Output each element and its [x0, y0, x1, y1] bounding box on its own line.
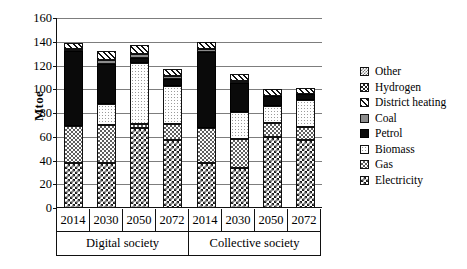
bar-segment-districtheating: [130, 45, 149, 53]
stacked-bar[interactable]: [230, 74, 249, 208]
bar-segment-electricity: [263, 137, 282, 208]
bar-segment-electricity: [230, 168, 249, 208]
bar-slot: [289, 18, 322, 208]
legend-item[interactable]: Petrol: [360, 126, 465, 142]
bar-segment-gas: [263, 123, 282, 137]
legend-label: District heating: [375, 97, 446, 109]
y-axis-tick-label: 20: [14, 177, 57, 192]
stacked-bar[interactable]: [64, 43, 83, 208]
legend-item[interactable]: Gas: [360, 157, 465, 173]
stacked-bar[interactable]: [130, 45, 149, 208]
bar-segment-biomass: [163, 86, 182, 124]
y-axis-tick-label: 140: [14, 34, 57, 49]
x-axis-category-label: 2050: [123, 209, 156, 231]
bar-slot: [156, 18, 189, 208]
legend-label: Gas: [375, 159, 393, 171]
y-axis-tick-label: 120: [14, 58, 57, 73]
bar-segment-gas: [64, 126, 83, 163]
legend-item[interactable]: Biomass: [360, 142, 465, 158]
y-axis-tick-label: 160: [14, 11, 57, 26]
legend-item[interactable]: Other: [360, 64, 465, 80]
x-axis-category-label: 2030: [90, 209, 123, 231]
legend-item[interactable]: Hydrogen: [360, 80, 465, 96]
x-axis-category-label: 2050: [255, 209, 288, 231]
stacked-bar[interactable]: [97, 51, 116, 208]
bar-segment-gas: [197, 128, 216, 162]
stacked-bar[interactable]: [163, 69, 182, 208]
y-axis-tick-label: 40: [14, 153, 57, 168]
legend-label: Petrol: [375, 128, 402, 140]
chart-legend: OtherHydrogenDistrict heatingCoalPetrolB…: [360, 64, 465, 188]
bar-segment-gas: [97, 125, 116, 163]
stacked-bar[interactable]: [296, 88, 315, 208]
stacked-bar[interactable]: [197, 42, 216, 208]
x-axis-category-label: 2014: [189, 209, 222, 231]
bar-segment-petrol: [64, 51, 83, 126]
x-axis-group-label: Digital society: [56, 231, 189, 255]
bar-segment-electricity: [296, 140, 315, 208]
legend-item[interactable]: District heating: [360, 95, 465, 111]
legend-label: Coal: [375, 113, 397, 125]
bar-segment-electricity: [130, 128, 149, 208]
bar-segment-biomass: [263, 106, 282, 123]
legend-swatch-other: [360, 67, 369, 76]
bar-segment-districtheating: [263, 89, 282, 96]
bar-slot: [190, 18, 223, 208]
legend-swatch-districtheating: [360, 98, 369, 107]
bar-segment-petrol: [97, 64, 116, 103]
bar-segment-petrol: [197, 52, 216, 128]
bar-slot: [123, 18, 156, 208]
legend-swatch-petrol: [360, 129, 369, 138]
bar-segment-districtheating: [97, 51, 116, 59]
bar-segment-electricity: [97, 163, 116, 208]
x-axis-category-label: 2072: [156, 209, 189, 231]
bar-segment-districtheating: [163, 69, 182, 76]
bar-slot: [256, 18, 289, 208]
y-axis-tick-label: 60: [14, 129, 57, 144]
bar-series-container: [57, 18, 322, 208]
bar-segment-gas: [230, 139, 249, 168]
legend-swatch-coal: [360, 114, 369, 123]
bar-segment-biomass: [230, 112, 249, 139]
legend-item[interactable]: Coal: [360, 111, 465, 127]
bar-segment-gas: [296, 127, 315, 140]
legend-swatch-biomass: [360, 145, 369, 154]
bar-segment-districtheating: [230, 74, 249, 81]
legend-label: Hydrogen: [375, 82, 421, 94]
x-axis-category-label: 2030: [222, 209, 255, 231]
y-axis-tick-label: 100: [14, 82, 57, 97]
x-axis-category-label: 2014: [56, 209, 90, 231]
bar-segment-biomass: [296, 100, 315, 127]
bar-segment-electricity: [197, 163, 216, 208]
legend-label: Other: [375, 66, 401, 78]
y-axis-tick-label: 0: [14, 201, 57, 216]
bar-segment-petrol: [230, 83, 249, 112]
legend-item[interactable]: Electricity: [360, 173, 465, 189]
bar-segment-electricity: [64, 163, 83, 208]
legend-label: Electricity: [375, 175, 423, 187]
plot-area: 160140120100806040200: [56, 18, 322, 208]
x-axis-category-label: 2072: [288, 209, 321, 231]
x-axis-group-label: Collective society: [189, 231, 321, 255]
legend-swatch-hydrogen: [360, 83, 369, 92]
legend-swatch-gas: [360, 160, 369, 169]
bar-segment-biomass: [130, 63, 149, 124]
bar-slot: [90, 18, 123, 208]
stacked-bar[interactable]: [263, 89, 282, 208]
y-axis-tick-label: 80: [14, 106, 57, 121]
x-axis-group-labels: Digital societyCollective society: [56, 231, 321, 256]
bar-segment-petrol: [163, 79, 182, 86]
bar-slot: [223, 18, 256, 208]
bar-slot: [57, 18, 90, 208]
bar-segment-electricity: [163, 140, 182, 208]
legend-swatch-electricity: [360, 176, 369, 185]
bar-segment-gas: [163, 124, 182, 141]
legend-label: Biomass: [375, 144, 415, 156]
stacked-bar-chart: Mtoe 160140120100806040200 2014203020502…: [0, 0, 467, 269]
bar-segment-biomass: [97, 104, 116, 125]
x-axis-category-labels: 20142030205020722014203020502072: [56, 209, 321, 232]
bar-segment-petrol: [263, 96, 282, 106]
bar-segment-districtheating: [197, 42, 216, 49]
